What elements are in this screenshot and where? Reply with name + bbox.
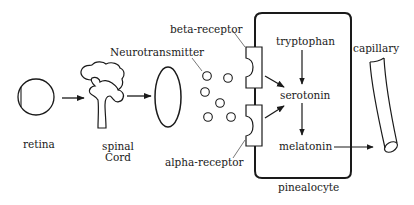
label-beta-receptor: beta-receptor: [170, 24, 243, 35]
label-cord: Cord: [101, 152, 135, 163]
brain-spinal-cord-icon: [81, 62, 124, 128]
arrow-beta-to-serotonin: [265, 76, 284, 87]
nerve-ending-oval: [155, 67, 181, 127]
alpha-receptor-icon: [246, 105, 262, 146]
label-melatonin: melatonin: [279, 141, 332, 152]
label-spinal: spinal: [101, 141, 135, 152]
label-capillary: capillary: [353, 43, 399, 54]
neurotransmitter-molecules: [201, 72, 236, 122]
label-pinealocyte: pinealocyte: [278, 182, 339, 193]
capillary-tube-icon: [370, 58, 399, 154]
label-tryptophan: tryptophan: [276, 36, 335, 47]
label-serotonin: serotonin: [280, 90, 330, 101]
label-neurotransmitter: Neurotransmitter: [110, 47, 204, 58]
label-alpha-receptor: alpha-receptor: [165, 157, 244, 168]
retina-eye-icon: [18, 79, 54, 115]
arrow-alpha-to-serotonin: [265, 106, 284, 118]
label-retina: retina: [23, 139, 55, 150]
neurotransmitter-pointer: [192, 58, 202, 71]
beta-receptor-icon: [246, 47, 262, 88]
pineal-pathway-diagram: retina spinal Cord Neurotransmitter beta…: [0, 0, 414, 205]
